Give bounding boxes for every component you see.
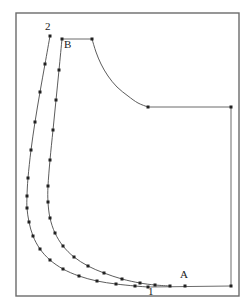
marker-right-bottom: [230, 285, 233, 288]
marker-A: [184, 285, 187, 288]
label-1: 1: [148, 285, 154, 297]
node-marker: [121, 278, 124, 281]
node-marker: [39, 248, 42, 251]
label-2: 2: [45, 20, 51, 32]
node-marker: [26, 195, 29, 198]
node-marker: [49, 159, 52, 162]
node-marker: [26, 207, 29, 210]
node-marker: [47, 185, 50, 188]
node-marker: [55, 99, 58, 102]
node-marker: [47, 201, 50, 204]
marker-right-top: [230, 106, 233, 109]
node-marker: [52, 129, 55, 132]
outer-frame: [16, 13, 239, 296]
node-marker: [134, 285, 137, 288]
node-marker: [54, 232, 57, 235]
node-marker: [169, 285, 172, 288]
node-marker: [91, 38, 94, 41]
node-marker: [62, 268, 65, 271]
node-marker: [27, 177, 30, 180]
diagram-canvas: 2BA1: [0, 0, 252, 307]
node-marker: [30, 149, 33, 152]
node-marker: [28, 221, 31, 224]
node-marker: [96, 280, 99, 283]
node-marker: [34, 121, 37, 124]
node-marker: [103, 272, 106, 275]
node-marker: [78, 275, 81, 278]
figure-container: 2BA1: [0, 0, 252, 307]
label-B: B: [64, 38, 71, 50]
node-marker: [139, 282, 142, 285]
node-marker: [49, 217, 52, 220]
node-marker: [73, 256, 76, 259]
node-marker: [147, 106, 150, 109]
node-marker: [44, 63, 47, 66]
node-marker: [62, 245, 65, 248]
label-A: A: [180, 268, 188, 280]
node-marker: [115, 283, 118, 286]
node-marker: [87, 265, 90, 268]
node-marker: [49, 35, 52, 38]
node-marker: [39, 91, 42, 94]
node-marker: [154, 284, 157, 287]
node-marker: [58, 69, 61, 72]
node-marker: [49, 259, 52, 262]
node-marker: [32, 235, 35, 238]
